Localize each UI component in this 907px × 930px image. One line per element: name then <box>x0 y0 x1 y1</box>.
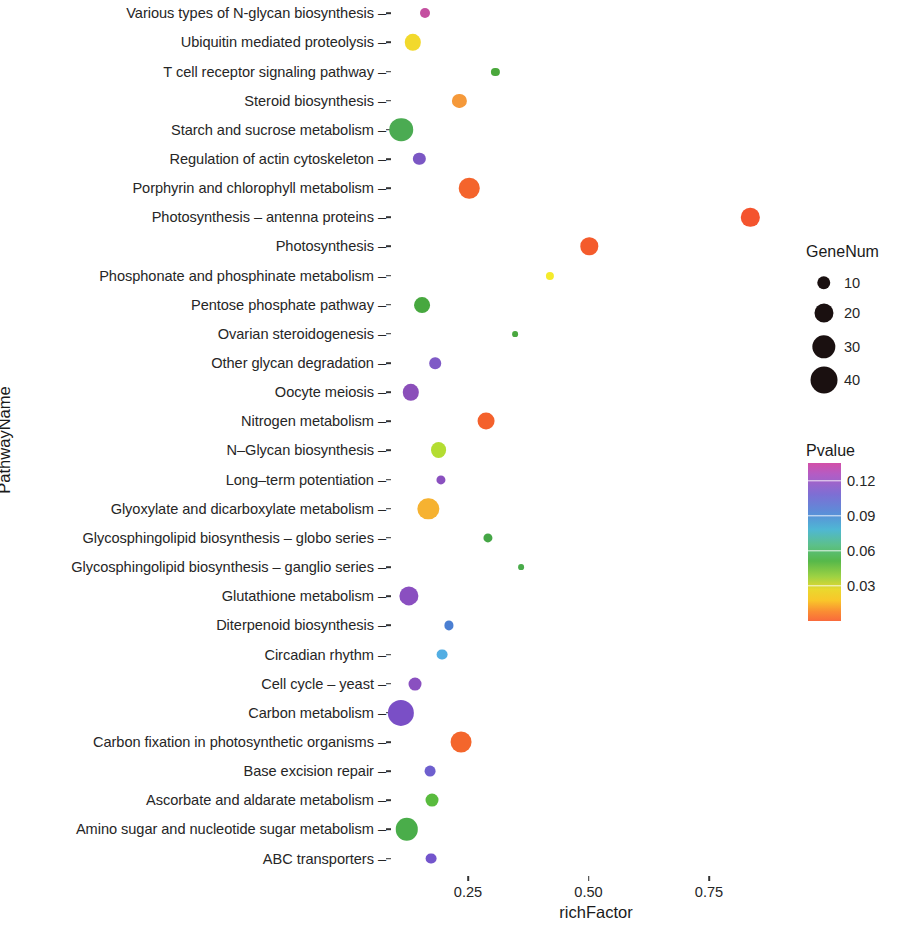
y-axis-tick-label: Base excision repair – <box>244 764 386 779</box>
data-point <box>425 794 438 807</box>
y-axis-tick-mark <box>386 595 391 597</box>
data-point <box>420 8 430 18</box>
y-axis-tick-label: Pentose phosphate pathway – <box>191 297 386 312</box>
gene-num-legend-title: GeneNum <box>806 243 907 261</box>
y-axis-tick-label: Circadian rhythm – <box>264 647 386 662</box>
y-axis-tick-mark <box>386 479 391 481</box>
y-axis-tick-mark <box>386 770 391 772</box>
data-point <box>491 67 499 75</box>
data-point <box>741 208 759 226</box>
data-point <box>389 118 413 142</box>
y-axis-tick-label: Ascorbate and aldarate metabolism – <box>146 793 386 808</box>
data-point <box>405 34 421 50</box>
data-point <box>414 297 430 313</box>
y-axis-tick-mark <box>386 450 391 452</box>
data-point <box>518 564 524 570</box>
y-axis-tick-mark <box>386 858 391 860</box>
data-point <box>512 331 518 337</box>
y-axis-tick-label: Porphyrin and chlorophyll metabolism – <box>132 181 386 196</box>
y-axis-tick-label: Glutathione metabolism – <box>222 589 386 604</box>
y-axis-tick-mark <box>386 508 391 510</box>
x-axis-tick-mark <box>467 876 469 881</box>
data-point <box>581 238 598 255</box>
data-point <box>459 178 480 199</box>
gene-num-legend-row: 20 <box>806 313 907 314</box>
data-point <box>413 153 425 165</box>
y-axis-tick-labels: Various types of N-glycan biosynthesis –… <box>0 0 386 880</box>
y-axis-tick-label: Ovarian steroidogenesis – <box>218 327 386 342</box>
y-axis-tick-label: Glyoxylate and dicarboxylate metabolism … <box>111 501 386 516</box>
gene-num-legend-dot <box>811 367 838 394</box>
y-axis-tick-label: Regulation of actin cytoskeleton – <box>169 152 386 167</box>
y-axis-tick-mark <box>386 537 391 539</box>
x-axis-tick-label: 0.50 <box>574 884 602 900</box>
pvalue-colorbar-tick-mark <box>808 515 841 516</box>
y-axis-tick-label: Starch and sucrose metabolism – <box>171 123 386 138</box>
pvalue-legend-title: Pvalue <box>806 442 907 460</box>
gene-num-legend-label: 40 <box>844 372 860 388</box>
y-axis-tick-mark <box>386 275 391 277</box>
pvalue-colorbar-tick-mark <box>808 585 841 586</box>
y-axis-tick-mark <box>386 683 391 685</box>
x-axis-title: richFactor <box>396 903 796 922</box>
pvalue-colorbar-tick-mark <box>808 550 841 551</box>
y-axis-tick-label: Phosphonate and phosphinate metabolism – <box>99 268 386 283</box>
gene-num-legend-row: 10 <box>806 283 907 284</box>
y-axis-tick-label: Carbon fixation in photosynthetic organi… <box>93 735 386 750</box>
y-axis-tick-mark <box>386 246 391 248</box>
y-axis-tick-label: Glycosphingolipid biosynthesis – globo s… <box>83 531 387 546</box>
y-axis-tick-label: Glycosphingolipid biosynthesis – ganglio… <box>71 560 386 575</box>
gene-num-legend-label: 10 <box>844 275 860 291</box>
data-point <box>436 475 445 484</box>
y-axis-tick-label: Carbon metabolism – <box>248 706 386 721</box>
pvalue-colorbar-tick-label: 0.12 <box>847 473 875 489</box>
y-axis-tick-label: Diterpenoid biosynthesis – <box>216 618 386 633</box>
gene-num-legend-row: 40 <box>806 380 907 381</box>
pvalue-colorbar-tick-mark <box>808 480 841 481</box>
plot-panel <box>396 0 792 876</box>
y-axis-tick-mark <box>386 362 391 364</box>
pvalue-color-legend: Pvalue 0.120.090.060.03 <box>806 442 907 460</box>
y-axis-tick-mark <box>386 216 391 218</box>
data-point <box>546 271 554 279</box>
y-axis-tick-mark <box>386 100 391 102</box>
pvalue-colorbar <box>808 463 841 621</box>
y-axis-tick-label: Steroid biosynthesis – <box>244 93 386 108</box>
x-axis-tick-label: 0.25 <box>454 884 482 900</box>
y-axis-tick-label: Ubiquitin mediated proteolysis – <box>181 35 386 50</box>
y-axis-tick-mark <box>386 625 391 627</box>
x-axis-tick-mark <box>708 876 710 881</box>
data-point <box>418 498 439 519</box>
data-point <box>437 649 448 660</box>
data-point <box>429 357 441 369</box>
y-axis-tick-label: Cell cycle – yeast – <box>261 676 386 691</box>
y-axis-tick-label: Long–term potentiation – <box>226 472 386 487</box>
y-axis-tick-mark <box>386 391 391 393</box>
data-point <box>452 94 466 108</box>
pvalue-colorbar-tick-label: 0.09 <box>847 508 875 524</box>
y-axis-tick-mark <box>386 333 391 335</box>
y-axis-tick-label: Various types of N-glycan biosynthesis – <box>126 6 386 21</box>
gene-num-legend-dot <box>817 276 830 289</box>
y-axis-tick-label: Photosynthesis – <box>276 239 386 254</box>
bubble-plot: Various types of N-glycan biosynthesis –… <box>0 0 907 930</box>
y-axis-tick-mark <box>386 799 391 801</box>
y-axis-tick-label: ABC transporters – <box>263 851 386 866</box>
y-axis-tick-label: Nitrogen metabolism – <box>241 414 386 429</box>
data-point <box>426 853 437 864</box>
y-axis-title-label: PathwayName <box>0 360 14 520</box>
y-axis-tick-mark <box>386 12 391 14</box>
y-axis-tick-label: Photosynthesis – antenna proteins – <box>152 210 386 225</box>
x-axis-tick-mark <box>588 876 590 881</box>
data-point <box>396 818 418 840</box>
x-axis-tick-label: 0.75 <box>695 884 723 900</box>
pvalue-colorbar-tick-label: 0.06 <box>847 543 875 559</box>
data-point <box>444 621 453 630</box>
y-axis-tick-mark <box>386 741 391 743</box>
y-axis-tick-mark <box>386 829 391 831</box>
data-point <box>387 700 413 726</box>
y-axis-tick-mark <box>386 304 391 306</box>
data-point <box>402 384 418 400</box>
y-axis-tick-mark <box>386 71 391 73</box>
pvalue-colorbar-tick-label: 0.03 <box>847 578 875 594</box>
